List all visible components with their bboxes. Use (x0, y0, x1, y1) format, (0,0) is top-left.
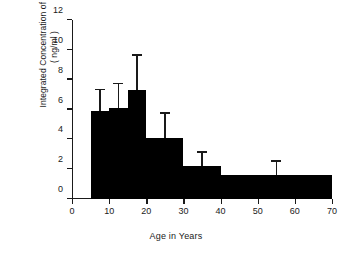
bar (128, 90, 147, 199)
x-tick-label: 30 (178, 206, 188, 216)
y-tick (67, 108, 72, 109)
growth-hormone-bar-chart: Integrated Concentration of GH ( ng/ml )… (0, 0, 352, 256)
y-tick-label: 0 (58, 184, 63, 194)
x-tick-label: 20 (141, 206, 151, 216)
x-tick-label: 0 (69, 206, 74, 216)
y-tick-label: 10 (53, 35, 63, 45)
error-bar-stem (276, 162, 277, 175)
x-tick-label: 70 (327, 206, 337, 216)
y-axis-line (72, 20, 73, 199)
x-tick (295, 199, 296, 204)
y-tick-label: 6 (58, 95, 63, 105)
error-bar-cap (132, 54, 142, 56)
error-bar-stem (164, 114, 165, 138)
x-tick-label: 60 (290, 206, 300, 216)
x-tick (72, 199, 73, 204)
y-tick-label: 4 (58, 124, 63, 134)
error-bar-stem (99, 90, 100, 111)
y-axis-title: Integrated Concentration of GH ( ng/ml ) (38, 0, 60, 140)
y-tick (67, 78, 72, 79)
x-tick (332, 199, 333, 204)
error-bar-cap (197, 151, 207, 153)
y-tick-label: 2 (58, 154, 63, 164)
error-bar-stem (136, 56, 137, 90)
x-tick-label: 50 (253, 206, 263, 216)
error-bar-stem (201, 153, 202, 166)
x-tick (146, 199, 147, 204)
bar (91, 111, 110, 199)
error-bar-stem (118, 84, 119, 108)
error-bar-cap (160, 112, 170, 114)
y-tick (67, 138, 72, 139)
y-tick (67, 19, 72, 20)
error-bar-cap (271, 160, 281, 162)
x-tick-label: 10 (104, 206, 114, 216)
y-tick-label: 12 (53, 5, 63, 15)
bar (109, 108, 128, 199)
y-axis-title-container: Integrated Concentration of GH ( ng/ml ) (8, 14, 42, 200)
error-bar-cap (95, 89, 105, 91)
y-tick-label: 8 (58, 65, 63, 75)
plot-area: 024681012 010203040506070 (72, 20, 332, 199)
y-tick (67, 168, 72, 169)
y-tick (67, 49, 72, 50)
bar (183, 166, 220, 199)
x-tick (109, 199, 110, 204)
x-tick-label: 40 (216, 206, 226, 216)
x-tick (258, 199, 259, 204)
bar (146, 138, 183, 199)
x-axis-title: Age in Years (0, 231, 352, 241)
bar (221, 175, 332, 199)
x-tick (183, 199, 184, 204)
error-bar-cap (113, 83, 123, 85)
x-tick (221, 199, 222, 204)
